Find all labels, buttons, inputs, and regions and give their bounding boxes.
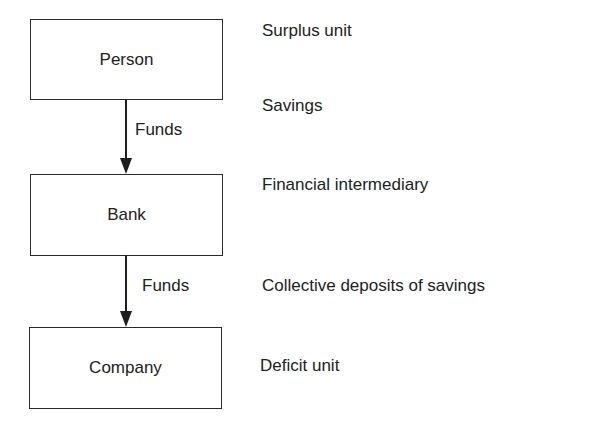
edge-2-description: Collective deposits of savings: [262, 276, 485, 296]
node-company-description: Deficit unit: [260, 356, 339, 376]
node-bank: Bank: [30, 174, 223, 256]
node-company-label: Company: [89, 358, 162, 378]
arrow-person-to-bank: [125, 99, 127, 161]
node-person: Person: [30, 19, 223, 100]
node-bank-label: Bank: [107, 205, 146, 225]
arrow-bank-to-company: [125, 255, 127, 313]
node-person-label: Person: [100, 50, 154, 70]
node-bank-description: Financial intermediary: [262, 175, 428, 195]
edge-1-description: Savings: [262, 96, 322, 116]
node-person-description: Surplus unit: [262, 21, 352, 41]
arrow-head-icon: [120, 311, 132, 327]
edge-1-label: Funds: [135, 120, 182, 140]
node-company: Company: [29, 327, 222, 409]
edge-2-label: Funds: [142, 276, 189, 296]
arrow-head-icon: [120, 158, 132, 174]
